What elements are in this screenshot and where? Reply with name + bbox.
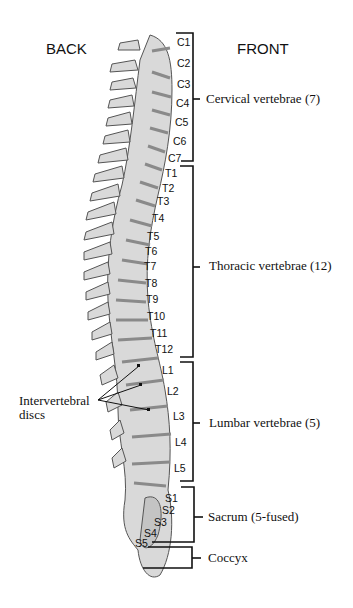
- vertebra-label-c7: C7: [168, 153, 181, 164]
- vertebra-label-c1: C1: [177, 37, 190, 48]
- vertebra-label-l5: L5: [174, 463, 186, 474]
- callout-line2: discs: [19, 408, 90, 422]
- vertebra-label-l2: L2: [167, 386, 179, 397]
- vertebra-label-c3: C3: [177, 79, 190, 90]
- vertebra-label-t10: T10: [147, 311, 165, 322]
- vertebra-label-t9: T9: [146, 294, 158, 305]
- vertebra-label-t4: T4: [152, 213, 164, 224]
- vertebra-label-l1: L1: [162, 365, 174, 376]
- vertebra-label-t12: T12: [155, 344, 173, 355]
- vertebra-label-s5: S5: [135, 538, 148, 549]
- vertebra-label-c5: C5: [175, 117, 188, 128]
- vertebra-label-s1: S1: [165, 493, 178, 504]
- vertebra-label-s2: S2: [162, 505, 175, 516]
- vertebra-label-t5: T5: [147, 231, 159, 242]
- vertebra-label-t2: T2: [162, 183, 174, 194]
- vertebra-label-t11: T11: [150, 328, 167, 339]
- vertebra-label-c6: C6: [173, 136, 186, 147]
- vertebra-label-t8: T8: [145, 278, 157, 289]
- vertebra-label-c4: C4: [176, 98, 189, 109]
- callout-line1: Intervertebral: [19, 394, 90, 408]
- back-header: BACK: [46, 40, 87, 57]
- region-label-lumbar: Lumbar vertebrae (5): [209, 416, 320, 430]
- vertebra-label-t1: T1: [165, 168, 177, 179]
- vertebra-label-t3: T3: [157, 196, 169, 207]
- vertebra-label-t6: T6: [145, 246, 157, 257]
- region-label-thoracic: Thoracic vertebrae (12): [209, 259, 332, 273]
- region-label-sacrum: Sacrum (5-fused): [208, 510, 299, 524]
- region-label-cervical: Cervical vertebrae (7): [206, 92, 320, 106]
- vertebra-label-t7: T7: [144, 261, 156, 272]
- vertebra-label-l4: L4: [175, 437, 187, 448]
- region-label-coccyx: Coccyx: [208, 551, 248, 565]
- vertebra-label-s3: S3: [154, 517, 167, 528]
- vertebra-label-c2: C2: [177, 58, 190, 69]
- callout-intervertebral-discs: Intervertebral discs: [19, 394, 90, 423]
- vertebra-label-l3: L3: [173, 411, 185, 422]
- front-header: FRONT: [237, 40, 289, 57]
- spine-diagram: BACK FRONT C1 C2 C3 C4 C5 C6 C7 T1 T2 T3…: [0, 0, 353, 608]
